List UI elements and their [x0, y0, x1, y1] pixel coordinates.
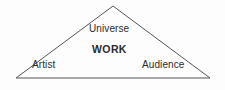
triangle-diagram: Universe WORK Artist Audience	[0, 0, 225, 90]
label-work: WORK	[92, 44, 127, 55]
label-universe: Universe	[89, 24, 129, 34]
label-artist: Artist	[32, 60, 55, 70]
label-audience: Audience	[142, 60, 185, 70]
